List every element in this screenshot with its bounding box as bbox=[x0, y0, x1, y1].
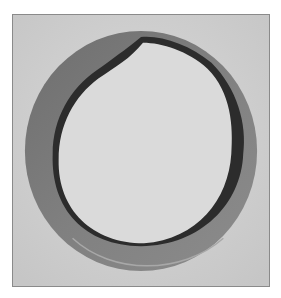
ring-photo bbox=[13, 15, 269, 286]
photo-frame bbox=[12, 14, 270, 287]
